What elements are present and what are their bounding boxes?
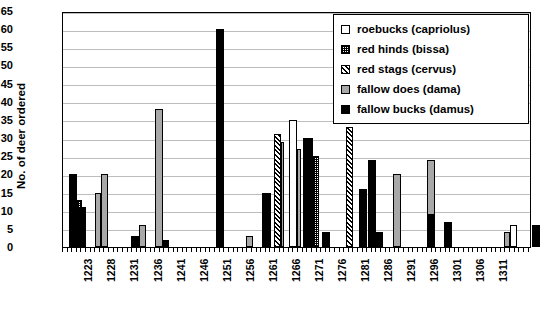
x-tick-label: 1301 <box>451 230 463 282</box>
bar <box>139 225 146 247</box>
y-tick-label: 5 <box>0 224 13 235</box>
y-tick-label: 50 <box>0 60 13 71</box>
bar <box>393 174 401 247</box>
x-tick-label: 1236 <box>152 230 164 282</box>
bar <box>281 142 284 247</box>
legend-item[interactable]: fallow bucks (damus) <box>341 99 522 119</box>
y-tick-label: 30 <box>0 133 13 144</box>
bar <box>289 120 297 247</box>
x-tick-label: 1286 <box>382 230 394 282</box>
y-tick-label: 45 <box>0 79 13 90</box>
y-tick-label: 35 <box>0 115 13 126</box>
y-tick-label: 10 <box>0 206 13 217</box>
legend-swatch-icon <box>341 105 350 114</box>
bar <box>510 225 517 247</box>
x-tick-label: 1311 <box>497 230 509 282</box>
y-tick-label: 0 <box>0 242 13 253</box>
legend-swatch-icon <box>341 85 350 94</box>
legend-item[interactable]: fallow does (dama) <box>341 79 522 99</box>
legend-swatch-icon <box>341 65 350 74</box>
bar <box>216 29 224 247</box>
x-tick-label: 1246 <box>198 230 210 282</box>
legend-swatch-icon <box>341 25 350 34</box>
x-tick-label: 1231 <box>128 230 140 282</box>
legend-item[interactable]: roebucks (capriolus) <box>341 19 522 39</box>
x-tick-label: 1256 <box>244 230 256 282</box>
legend-label: red hinds (bissa) <box>357 43 449 55</box>
legend-label: roebucks (capriolus) <box>357 23 470 35</box>
y-tick-label: 25 <box>0 151 13 162</box>
x-tick-label: 1276 <box>336 230 348 282</box>
x-tick-label: 1223 <box>82 230 94 282</box>
x-tick-label: 1261 <box>267 230 279 282</box>
legend-label: fallow does (dama) <box>357 83 461 95</box>
x-tick-label: 1291 <box>405 230 417 282</box>
x-tick-label: 1228 <box>105 230 117 282</box>
y-axis-title: No. of deer ordered <box>15 36 27 236</box>
y-tick-label: 55 <box>0 42 13 53</box>
legend-label: red stags (cervus) <box>357 63 456 75</box>
x-tick-label: 1306 <box>474 230 486 282</box>
bar <box>303 138 313 247</box>
x-tick-label: 1296 <box>428 230 440 282</box>
legend-swatch-icon <box>341 45 350 54</box>
y-tick-label: 15 <box>0 188 13 199</box>
bar <box>532 225 540 247</box>
y-tick-label: 40 <box>0 97 13 108</box>
x-tick-label: 1271 <box>313 230 325 282</box>
x-tick-label: 1251 <box>221 230 233 282</box>
x-tick-label: 1241 <box>175 230 187 282</box>
bar <box>155 109 163 247</box>
x-axis-tick-labels: 1223122812311236124112461251125612611266… <box>62 250 531 310</box>
deer-orders-bar-chart: No. of deer ordered 05101520253035404550… <box>0 0 547 310</box>
y-tick-label: 60 <box>0 24 13 35</box>
legend-item[interactable]: red hinds (bissa) <box>341 39 522 59</box>
bar <box>69 174 77 247</box>
x-tick-label: 1266 <box>290 230 302 282</box>
y-tick-label: 65 <box>0 6 13 17</box>
legend-item[interactable]: red stags (cervus) <box>341 59 522 79</box>
legend-label: fallow bucks (damus) <box>357 103 474 115</box>
x-tick-label: 1281 <box>359 230 371 282</box>
y-tick-label: 20 <box>0 169 13 180</box>
legend: roebucks (capriolus)red hinds (bissa)red… <box>333 14 529 124</box>
